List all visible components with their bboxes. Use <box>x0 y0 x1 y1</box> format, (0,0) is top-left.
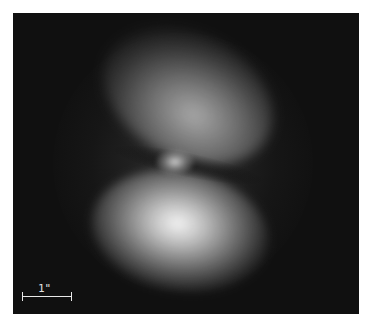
nebula-image: 1" <box>13 13 359 314</box>
scale-bar-line <box>22 296 72 297</box>
scale-bar-tick-left <box>22 292 23 301</box>
scale-bar-tick-right <box>71 292 72 301</box>
scale-bar-label: 1" <box>38 283 51 294</box>
scale-bar: 1" <box>22 283 82 303</box>
central-source <box>156 149 194 175</box>
